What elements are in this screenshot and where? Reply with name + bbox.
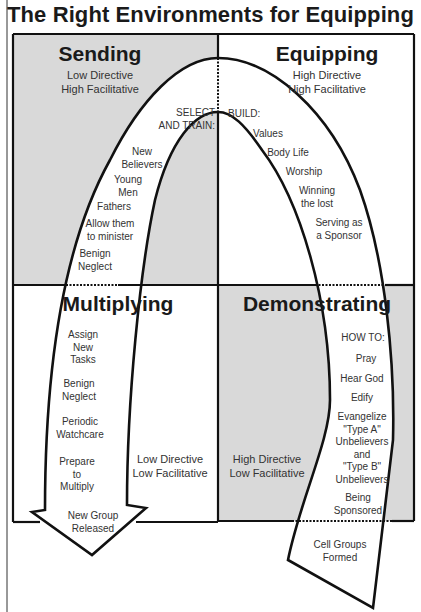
end-new-group-released: New Group Released	[58, 510, 128, 535]
equipping-style: High Directive High Facilitative	[257, 68, 397, 96]
item-line: Unbelievers	[330, 436, 394, 449]
item-line: Released	[58, 523, 128, 536]
multiply-item-assign-new-tasks: Assign New Tasks	[58, 329, 108, 367]
item-line: Serving as	[304, 217, 374, 230]
start-cell-groups-formed: Cell Groups Formed	[305, 539, 375, 564]
build-item-body-life: Body Life	[258, 147, 318, 160]
item-line: Formed	[305, 552, 375, 565]
item-line: Values	[243, 128, 293, 141]
item-line: Worship	[274, 166, 334, 179]
equipping-directive: High Directive	[257, 68, 397, 82]
item-line: Multiply	[52, 481, 102, 494]
how-to-item-evangelize: Evangelize "Type A" Unbelievers and "Typ…	[330, 411, 394, 486]
item-line: Sponsored	[326, 505, 390, 518]
item-line: to	[52, 469, 102, 482]
equipping-title: Equipping	[262, 42, 392, 66]
item-line: Being	[326, 492, 390, 505]
build-item-worship: Worship	[274, 166, 334, 179]
item-line: New	[58, 342, 108, 355]
item-line: Men	[98, 187, 158, 200]
heading-line: AND TRAIN:	[145, 120, 215, 133]
select-and-train-heading: SELECT AND TRAIN:	[145, 107, 215, 132]
item-line: Unbelievers	[330, 474, 394, 487]
multiply-item-prepare-to-multiply: Prepare to Multiply	[52, 456, 102, 494]
how-to-heading: HOW TO:	[333, 332, 393, 345]
multiply-item-periodic-watchcare: Periodic Watchcare	[52, 416, 108, 441]
item-line: Evangelize	[330, 411, 394, 424]
sending-facilitative: High Facilitative	[30, 82, 170, 96]
item-line: Hear God	[332, 373, 392, 386]
multiplying-title: Multiplying	[58, 292, 178, 316]
how-to-item-hear-god: Hear God	[332, 373, 392, 386]
item-line: Benign	[54, 378, 104, 391]
item-line: Young	[98, 174, 158, 187]
multiply-item-benign-neglect: Benign Neglect	[54, 378, 104, 403]
item-line: Neglect	[70, 261, 120, 274]
build-heading: BUILD:	[228, 108, 268, 121]
item-line: Neglect	[54, 391, 104, 404]
item-line: Prepare	[52, 456, 102, 469]
how-to-item-edify: Edify	[332, 392, 392, 405]
demonstrating-directive: High Directive	[222, 452, 312, 466]
item-line: Pray	[336, 353, 396, 366]
item-line: Allow them	[80, 218, 140, 231]
demonstrating-style: High Directive Low Facilitative	[222, 452, 312, 480]
item-line: Tasks	[58, 354, 108, 367]
item-line: Winning	[287, 185, 347, 198]
item-line: Body Life	[258, 147, 318, 160]
select-item-new-believers: New Believers	[112, 146, 172, 171]
build-item-serving-as-a-sponsor: Serving as a Sponsor	[304, 217, 374, 242]
select-item-benign-neglect: Benign Neglect	[70, 248, 120, 273]
sending-title: Sending	[40, 42, 160, 66]
item-line: Watchcare	[52, 429, 108, 442]
item-line: "Type B"	[330, 461, 394, 474]
item-line: Periodic	[52, 416, 108, 429]
build-item-values: Values	[243, 128, 293, 141]
equipping-facilitative: High Facilitative	[257, 82, 397, 96]
how-to-item-pray: Pray	[336, 353, 396, 366]
heading-line: SELECT	[145, 107, 215, 120]
item-line: Cell Groups	[305, 539, 375, 552]
select-item-young-men: Young Men	[98, 174, 158, 199]
item-line: Edify	[332, 392, 392, 405]
item-line: the lost	[287, 198, 347, 211]
multiplying-directive: Low Directive	[120, 452, 220, 466]
item-line: Believers	[112, 159, 172, 172]
item-line: Benign	[70, 248, 120, 261]
item-line: a Sponsor	[304, 230, 374, 243]
how-to-item-being-sponsored: Being Sponsored	[326, 492, 390, 517]
select-item-fathers: Fathers	[84, 201, 144, 214]
item-line: Fathers	[84, 201, 144, 214]
multiplying-facilitative: Low Facilitative	[120, 466, 220, 480]
demonstrating-facilitative: Low Facilitative	[222, 466, 312, 480]
sending-style: Low Directive High Facilitative	[30, 68, 170, 96]
select-item-allow-them-to-minister: Allow them to minister	[80, 218, 140, 243]
item-line: "Type A"	[330, 424, 394, 437]
build-item-winning-the-lost: Winning the lost	[287, 185, 347, 210]
multiplying-style: Low Directive Low Facilitative	[120, 452, 220, 480]
item-line: and	[330, 449, 394, 462]
sending-directive: Low Directive	[30, 68, 170, 82]
item-line: to minister	[80, 231, 140, 244]
item-line: New Group	[58, 510, 128, 523]
item-line: New	[112, 146, 172, 159]
demonstrating-title: Demonstrating	[242, 292, 392, 316]
item-line: Assign	[58, 329, 108, 342]
